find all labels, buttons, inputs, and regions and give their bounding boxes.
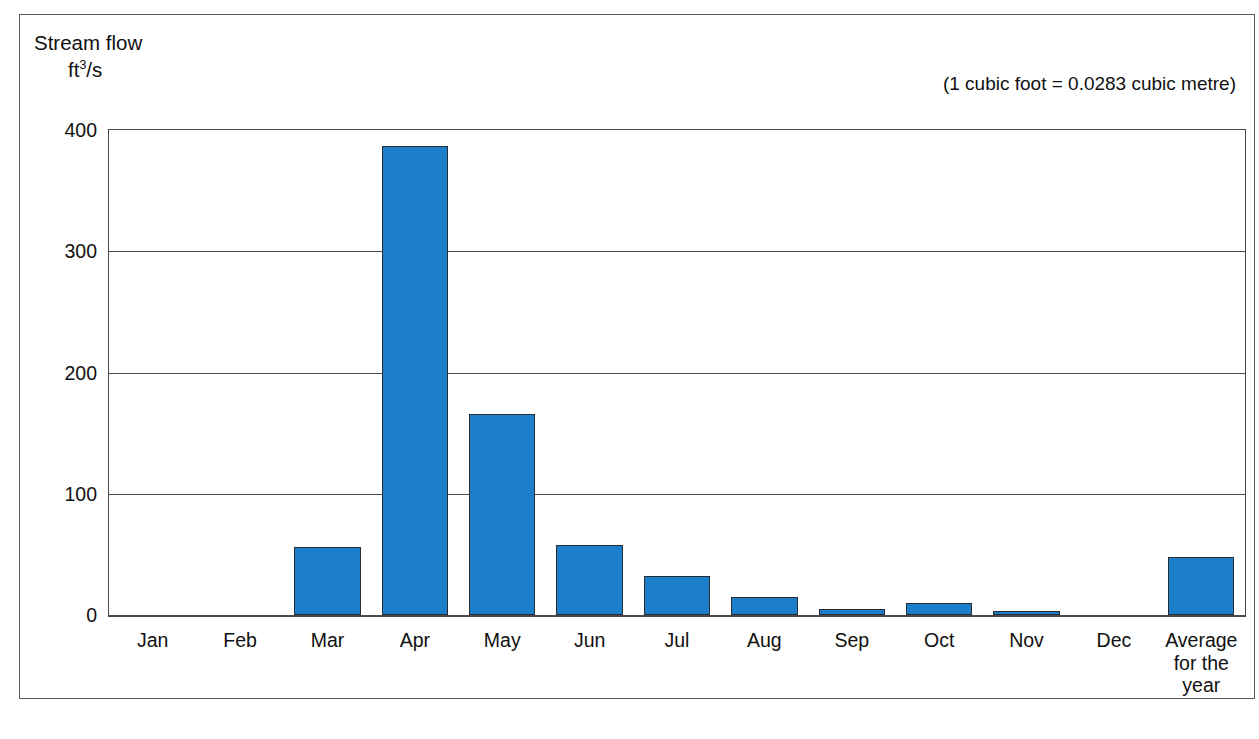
x-tick-label: Aug — [721, 629, 808, 652]
x-tick-label: Apr — [371, 629, 458, 652]
x-tick-label: Jun — [546, 629, 633, 652]
unit-conversion-note: (1 cubic foot = 0.0283 cubic metre) — [943, 73, 1236, 95]
y-axis-title: Stream flow — [34, 32, 142, 55]
bar-slot: Mar — [284, 130, 371, 615]
figure-frame: Stream flow ft3/s (1 cubic foot = 0.0283… — [19, 14, 1255, 699]
y-tick-label-300: 300 — [64, 240, 97, 263]
bar[interactable] — [294, 547, 360, 615]
bar[interactable] — [906, 603, 972, 615]
bar[interactable] — [556, 545, 622, 615]
x-tick-label: Sep — [808, 629, 895, 652]
x-tick-label: Jul — [633, 629, 720, 652]
x-tick-label: Mar — [284, 629, 371, 652]
bar-series: JanFebMarAprMayJunJulAugSepOctNovDecAver… — [109, 130, 1245, 615]
y-axis-unit-base: ft — [68, 58, 79, 81]
x-tick-label: Nov — [983, 629, 1070, 652]
bar[interactable] — [1168, 557, 1234, 615]
y-axis-unit-tail: /s — [86, 58, 102, 81]
x-tick-label: Dec — [1070, 629, 1157, 652]
bar[interactable] — [644, 576, 710, 615]
bar[interactable] — [819, 609, 885, 615]
bar[interactable] — [469, 414, 535, 615]
x-tick-label: Average for the year — [1158, 629, 1245, 697]
y-tick-label-200: 200 — [64, 361, 97, 384]
bar-slot: Nov — [983, 130, 1070, 615]
y-tick-label-0: 0 — [86, 604, 97, 627]
y-axis-unit: ft3/s — [68, 59, 102, 82]
y-tick-label-100: 100 — [64, 482, 97, 505]
bar-slot: Average for the year — [1158, 130, 1245, 615]
bar-slot: Jan — [109, 130, 196, 615]
bar-slot: Dec — [1070, 130, 1157, 615]
x-tick-label: Feb — [196, 629, 283, 652]
bar-slot: Jul — [633, 130, 720, 615]
bar[interactable] — [382, 146, 448, 615]
bar-slot: Aug — [721, 130, 808, 615]
x-tick-label: Oct — [895, 629, 982, 652]
figure-caption — [22, 722, 1222, 738]
bar-slot: Sep — [808, 130, 895, 615]
plot-area: 4003002001000 JanFebMarAprMayJunJulAugSe… — [108, 129, 1246, 617]
y-tick-label-400: 400 — [64, 119, 97, 142]
bar-slot: Feb — [196, 130, 283, 615]
bar[interactable] — [731, 597, 797, 615]
bar-slot: May — [459, 130, 546, 615]
x-tick-label: May — [459, 629, 546, 652]
bar-slot: Jun — [546, 130, 633, 615]
bar-slot: Apr — [371, 130, 458, 615]
x-tick-label: Jan — [109, 629, 196, 652]
bar-slot: Oct — [895, 130, 982, 615]
bar[interactable] — [993, 611, 1059, 615]
